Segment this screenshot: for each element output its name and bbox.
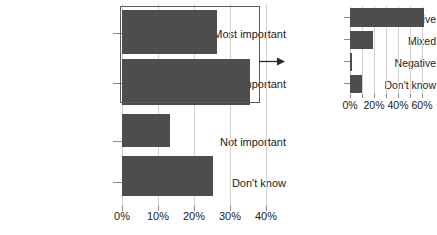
left-bar-dont-know (122, 156, 213, 196)
right-xtick-mark-30 (386, 94, 387, 98)
left-xtick-label-0: 0% (102, 211, 142, 222)
left-category-tick-3 (113, 182, 122, 183)
left-bar-somewhat-important (122, 59, 250, 105)
left-gridline-30 (230, 4, 231, 206)
left-bar-chart: Most important Somewhat important Not im… (0, 0, 286, 235)
left-xtick-label-30: 30% (210, 211, 250, 222)
left-xtick-label-10: 10% (138, 211, 178, 222)
right-bar-mixed (350, 31, 373, 49)
right-xtick-mark-20 (374, 94, 375, 98)
right-bar-positive (350, 8, 424, 27)
right-xtick-mark-0 (350, 94, 351, 98)
left-bar-not-important (122, 114, 170, 147)
left-plot-area (122, 4, 268, 206)
left-xtick-label-40: 40% (246, 211, 286, 222)
callout-arrow-icon (259, 56, 285, 67)
right-bar-negative (350, 53, 352, 71)
right-xtick-mark-40 (398, 94, 399, 98)
left-category-tick-1 (113, 83, 122, 84)
left-category-tick-2 (113, 141, 122, 142)
right-bar-dont-know (350, 75, 362, 93)
right-plot-area (350, 6, 436, 94)
right-xtick-mark-60 (422, 94, 423, 98)
left-gridline-40 (266, 4, 267, 206)
left-xtick-label-20: 20% (174, 211, 214, 222)
right-xtick-mark-10 (362, 94, 363, 98)
left-bar-most-important (122, 10, 217, 54)
right-xtick-mark-50 (410, 94, 411, 98)
right-bar-chart: Positive Mixed Negative Don't know (286, 0, 436, 130)
left-category-tick-0 (113, 33, 122, 34)
right-xtick-label-60: 60% (407, 100, 437, 111)
